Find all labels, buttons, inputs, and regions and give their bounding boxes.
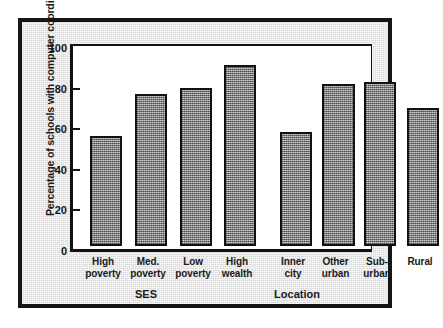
chart-plate: Percentage of schools with computer coor… xyxy=(18,18,392,308)
y-tick-label-100: 100 xyxy=(49,42,67,54)
category-label-high-wealth: Highwealth xyxy=(212,256,262,279)
bar-series xyxy=(76,48,370,246)
bar-high-wealth[interactable] xyxy=(224,65,256,246)
category-label-med-poverty: Med.poverty xyxy=(123,256,173,279)
group-label-location: Location xyxy=(222,288,372,300)
category-label-line1: Low xyxy=(168,256,218,268)
bar-other-urban[interactable] xyxy=(322,84,355,246)
y-tick-label-80: 80 xyxy=(55,83,67,95)
category-label-high-poverty: Highpoverty xyxy=(78,256,128,279)
category-label-line1: Rural xyxy=(395,256,443,268)
category-label-line2: poverty xyxy=(168,268,218,280)
category-label-line2: urban xyxy=(352,268,402,280)
category-label-line1: Med. xyxy=(123,256,173,268)
category-label-line2: poverty xyxy=(123,268,173,280)
y-tick-label-0: 0 xyxy=(61,245,67,257)
category-label-line2: wealth xyxy=(212,268,262,280)
bar-rural[interactable] xyxy=(407,108,439,246)
category-label-line2: poverty xyxy=(78,268,128,280)
bar-inner-city[interactable] xyxy=(280,132,312,246)
bar-med-poverty[interactable] xyxy=(135,94,167,246)
plot-area: 100806040200 xyxy=(70,44,372,252)
category-label-line1: High xyxy=(78,256,128,268)
bar-sub-urban[interactable] xyxy=(364,82,396,246)
category-label-low-poverty: Lowpoverty xyxy=(168,256,218,279)
y-tick-label-40: 40 xyxy=(55,164,67,176)
bar-low-poverty[interactable] xyxy=(180,88,212,246)
group-label-ses: SES xyxy=(70,288,222,300)
category-label-line1: High xyxy=(212,256,262,268)
y-tick-label-20: 20 xyxy=(55,204,67,216)
y-tick-label-60: 60 xyxy=(55,123,67,135)
bar-high-poverty[interactable] xyxy=(90,136,122,246)
category-label-rural: Rural xyxy=(395,256,443,268)
